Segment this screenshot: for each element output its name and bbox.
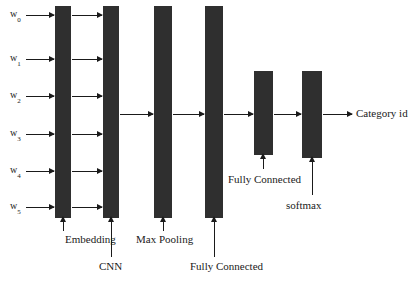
cnn-to-maxpooling-arrow xyxy=(120,114,153,115)
layer-bar-fully-connected-1 xyxy=(205,6,223,218)
input-token-w0: w0 xyxy=(10,9,21,22)
embedding-to-cnn-arrow-3 xyxy=(72,134,102,135)
caption-fully-connected-1: Fully Connected xyxy=(190,261,263,272)
input-token-subscript: 0 xyxy=(17,16,21,24)
input-token-w5: w5 xyxy=(10,201,21,214)
input-arrow-w5 xyxy=(26,207,54,208)
input-arrow-w4 xyxy=(26,171,54,172)
input-token-subscript: 5 xyxy=(17,208,21,216)
caption-embedding: Embedding xyxy=(65,234,116,245)
leader-line-fully-connected-1 xyxy=(214,221,215,257)
leader-line-softmax xyxy=(312,161,313,195)
leader-line-max-pooling xyxy=(163,221,164,231)
architecture-diagram: w0 w1 w2 w3 w4 w5 Category id xyxy=(0,0,419,282)
fc2-to-softmax-arrow xyxy=(274,114,301,115)
input-token-w3: w3 xyxy=(10,128,21,141)
layer-bar-fully-connected-2 xyxy=(254,71,273,155)
input-arrow-w3 xyxy=(26,134,54,135)
input-token-w4: w4 xyxy=(10,165,21,178)
layer-bar-embedding xyxy=(55,6,71,218)
input-token-subscript: 2 xyxy=(17,97,21,105)
input-token-subscript: 3 xyxy=(17,135,21,143)
caption-max-pooling: Max Pooling xyxy=(136,234,193,245)
input-token-subscript: 4 xyxy=(17,172,21,180)
input-token-subscript: 1 xyxy=(17,60,21,68)
embedding-to-cnn-arrow-1 xyxy=(72,59,102,60)
embedding-to-cnn-arrow-4 xyxy=(72,171,102,172)
layer-bar-softmax xyxy=(302,71,322,158)
output-label-category-id: Category id xyxy=(356,108,408,119)
fc1-to-fc2-arrow xyxy=(224,114,253,115)
input-token-w1: w1 xyxy=(10,53,21,66)
leader-line-embedding xyxy=(63,221,64,231)
caption-softmax: softmax xyxy=(286,200,321,211)
input-arrow-w2 xyxy=(26,96,54,97)
input-arrow-w1 xyxy=(26,59,54,60)
embedding-to-cnn-arrow-0 xyxy=(72,15,102,16)
embedding-to-cnn-arrow-2 xyxy=(72,96,102,97)
softmax-to-output-arrow xyxy=(323,114,352,115)
embedding-to-cnn-arrow-5 xyxy=(72,207,102,208)
layer-bar-max-pooling xyxy=(154,6,172,218)
input-arrow-w0 xyxy=(26,15,54,16)
maxpooling-to-fc1-arrow xyxy=(173,114,204,115)
layer-bar-cnn xyxy=(103,6,119,218)
leader-line-fully-connected-2 xyxy=(263,158,264,169)
caption-cnn: CNN xyxy=(99,261,122,272)
input-token-w2: w2 xyxy=(10,90,21,103)
caption-fully-connected-2: Fully Connected xyxy=(228,174,301,185)
